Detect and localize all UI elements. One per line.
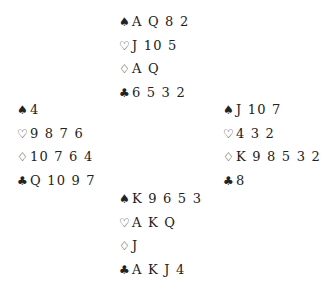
club-icon: ♣ <box>119 259 132 283</box>
north-clubs-cards: 6 5 3 2 <box>132 85 186 100</box>
west-diamonds-row: ♢10 7 6 4 <box>17 145 96 169</box>
west-diamonds-cards: 10 7 6 4 <box>30 149 93 164</box>
west-spades-row: ♠4 <box>17 98 96 122</box>
east-hand: ♠J 10 7 ♡4 3 2 ♢K 9 8 5 3 2 ♣8 <box>223 98 321 192</box>
south-clubs-row: ♣A K J 4 <box>119 258 202 282</box>
west-hand: ♠4 ♡9 8 7 6 ♢10 7 6 4 ♣Q 10 9 7 <box>17 98 96 192</box>
south-hearts-cards: A K Q <box>132 215 176 230</box>
west-spades-cards: 4 <box>30 102 39 117</box>
west-hearts-cards: 9 8 7 6 <box>30 126 84 141</box>
club-icon: ♣ <box>119 82 132 106</box>
west-hearts-row: ♡9 8 7 6 <box>17 122 96 146</box>
spade-icon: ♠ <box>17 99 30 123</box>
spade-icon: ♠ <box>119 188 132 212</box>
east-spades-cards: J 10 7 <box>236 102 282 117</box>
diamond-icon: ♢ <box>17 146 30 170</box>
east-clubs-cards: 8 <box>236 173 245 188</box>
heart-icon: ♡ <box>223 123 236 147</box>
heart-icon: ♡ <box>119 212 132 236</box>
south-spades-row: ♠K 9 6 5 3 <box>119 187 202 211</box>
diamond-icon: ♢ <box>119 235 132 259</box>
north-spades-cards: A Q 8 2 <box>132 14 189 29</box>
south-spades-cards: K 9 6 5 3 <box>132 191 202 206</box>
heart-icon: ♡ <box>17 123 30 147</box>
north-hearts-cards: J 10 5 <box>132 38 178 53</box>
north-hand: ♠A Q 8 2 ♡J 10 5 ♢A Q ♣6 5 3 2 <box>119 10 189 104</box>
north-diamonds-row: ♢A Q <box>119 57 189 81</box>
east-spades-row: ♠J 10 7 <box>223 98 321 122</box>
east-diamonds-cards: K 9 8 5 3 2 <box>236 149 321 164</box>
north-clubs-row: ♣6 5 3 2 <box>119 81 189 105</box>
north-hearts-row: ♡J 10 5 <box>119 34 189 58</box>
north-diamonds-cards: A Q <box>132 61 160 76</box>
south-hand: ♠K 9 6 5 3 ♡A K Q ♢J ♣A K J 4 <box>119 187 202 281</box>
club-icon: ♣ <box>223 170 236 194</box>
spade-icon: ♠ <box>223 99 236 123</box>
spade-icon: ♠ <box>119 11 132 35</box>
east-hearts-cards: 4 3 2 <box>236 126 275 141</box>
club-icon: ♣ <box>17 170 30 194</box>
west-clubs-cards: Q 10 9 7 <box>30 173 96 188</box>
south-diamonds-row: ♢J <box>119 234 202 258</box>
east-hearts-row: ♡4 3 2 <box>223 122 321 146</box>
south-hearts-row: ♡A K Q <box>119 211 202 235</box>
heart-icon: ♡ <box>119 35 132 59</box>
north-spades-row: ♠A Q 8 2 <box>119 10 189 34</box>
south-clubs-cards: A K J 4 <box>132 262 185 277</box>
east-clubs-row: ♣8 <box>223 169 321 193</box>
south-diamonds-cards: J <box>132 238 138 253</box>
diamond-icon: ♢ <box>119 58 132 82</box>
west-clubs-row: ♣Q 10 9 7 <box>17 169 96 193</box>
diamond-icon: ♢ <box>223 146 236 170</box>
east-diamonds-row: ♢K 9 8 5 3 2 <box>223 145 321 169</box>
